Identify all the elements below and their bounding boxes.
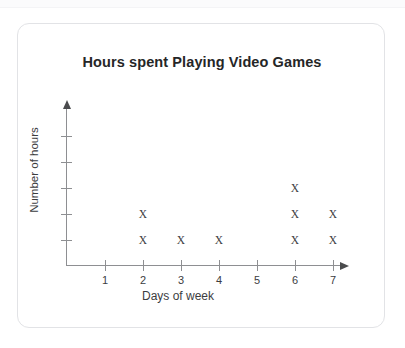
data-point-marker: X: [135, 232, 151, 248]
x-axis-tick-label: 2: [133, 274, 153, 286]
x-axis-label: Days of week: [18, 289, 338, 303]
x-axis-tick-label: 1: [95, 274, 115, 286]
top-crop-artifact: [0, 0, 405, 8]
y-axis-label: Number of hours: [28, 110, 40, 230]
y-axis-arrow-icon: [63, 100, 71, 109]
y-axis-tick: [61, 188, 72, 189]
y-axis-tick: [61, 240, 72, 241]
x-axis-tick-label: 4: [209, 274, 229, 286]
x-axis-tick: [219, 260, 220, 271]
y-axis-line: [66, 108, 67, 266]
x-axis-tick: [105, 260, 106, 271]
x-axis-tick-label: 7: [323, 274, 343, 286]
x-axis-tick-label: 5: [247, 274, 267, 286]
y-axis-tick: [61, 162, 72, 163]
data-point-marker: X: [287, 206, 303, 222]
y-axis-tick: [61, 214, 72, 215]
y-axis-tick: [61, 136, 72, 137]
x-axis-tick: [333, 260, 334, 271]
data-point-marker: X: [173, 232, 189, 248]
x-axis-line: [66, 265, 341, 266]
x-axis-tick: [181, 260, 182, 271]
x-axis-tick: [295, 260, 296, 271]
x-axis-tick-label: 6: [285, 274, 305, 286]
x-axis-tick: [257, 260, 258, 271]
data-point-marker: X: [135, 206, 151, 222]
data-point-marker: X: [287, 232, 303, 248]
data-point-marker: X: [211, 232, 227, 248]
x-axis-tick: [143, 260, 144, 271]
x-axis-tick-label: 3: [171, 274, 191, 286]
x-axis-arrow-icon: [340, 262, 349, 270]
data-point-marker: X: [287, 180, 303, 196]
data-point-marker: X: [325, 206, 341, 222]
dot-plot: Number of hours Days of week 1234567 XXX…: [18, 24, 386, 329]
chart-card: Hours spent Playing Video Games Number o…: [17, 23, 385, 328]
data-point-marker: X: [325, 232, 341, 248]
